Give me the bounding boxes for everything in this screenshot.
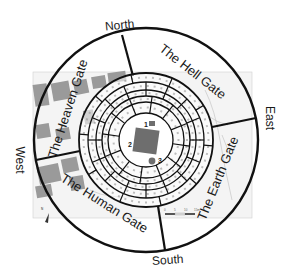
marker-3-building: [149, 158, 156, 165]
central-building: [132, 127, 159, 154]
svg-text:N: N: [41, 207, 43, 211]
direction-north: North: [104, 17, 135, 34]
marker-label-2: 2: [128, 141, 132, 148]
direction-east: East: [263, 106, 277, 131]
direction-south: South: [152, 252, 184, 268]
marker-1-building: [149, 121, 155, 126]
scale-tick-label: 10: [184, 208, 188, 212]
marker-label-3: 3: [158, 157, 162, 164]
diagram-canvas: 123 051015m N NorthEastSouthWest The Hea…: [0, 0, 288, 278]
divider-0: [122, 35, 133, 76]
marker-label-1: 1: [144, 121, 148, 128]
direction-west: West: [13, 146, 27, 174]
